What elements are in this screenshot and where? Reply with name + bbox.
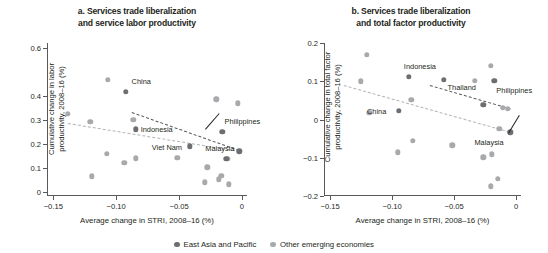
panel-a-plot-area: Cumulative change in labor productivity,… bbox=[47, 43, 247, 196]
data-point bbox=[395, 150, 400, 155]
data-point bbox=[123, 89, 128, 94]
y-tick-label: 0.6 bbox=[30, 43, 41, 52]
data-point bbox=[105, 77, 110, 82]
legend-label-eap: East Asia and Pacific bbox=[184, 240, 257, 249]
y-tick bbox=[320, 81, 324, 82]
panel-b-y-axis-label-line1: Cumulative change in total factor bbox=[323, 52, 332, 163]
data-point bbox=[205, 165, 210, 170]
data-point bbox=[488, 63, 493, 68]
y-tick-label: 0.1 bbox=[30, 164, 41, 173]
label-leader-line bbox=[508, 115, 520, 134]
x-tick-label: −0.05 bbox=[444, 202, 463, 211]
legend: East Asia and Pacific Other emerging eco… bbox=[0, 240, 548, 249]
data-point bbox=[236, 149, 241, 154]
data-point bbox=[495, 176, 500, 181]
data-point bbox=[409, 97, 414, 102]
y-tick bbox=[320, 43, 324, 44]
x-tick-label: −0.15 bbox=[44, 202, 63, 211]
data-point bbox=[505, 106, 510, 111]
data-point bbox=[213, 96, 218, 101]
data-point bbox=[492, 78, 497, 83]
data-point bbox=[488, 184, 493, 189]
y-tick-label: 0.4 bbox=[30, 92, 41, 101]
panel-a-x-axis bbox=[47, 195, 247, 196]
data-point bbox=[235, 101, 240, 106]
data-point-label: China bbox=[367, 107, 386, 116]
figure-scatter-pair: a. Services trade liberalization and ser… bbox=[0, 0, 548, 253]
data-point-label: Philippines bbox=[496, 86, 532, 95]
data-point bbox=[220, 129, 225, 134]
panel-b-x-axis bbox=[324, 195, 521, 196]
y-tick bbox=[43, 144, 47, 145]
data-point-label: Philippines bbox=[224, 117, 260, 126]
data-point bbox=[122, 160, 127, 165]
y-tick-label: 0.2 bbox=[307, 39, 318, 48]
y-tick-label: −0.1 bbox=[303, 153, 318, 162]
data-point-label: Malaysia bbox=[474, 138, 503, 147]
panel-b-title-line1: b. Services trade liberalization bbox=[352, 6, 471, 16]
panel-a-y-axis-label: Cumulative change in labor productivity,… bbox=[47, 39, 67, 179]
data-point bbox=[497, 126, 502, 131]
label-leader-line bbox=[205, 113, 220, 130]
x-tick-label: 0 bbox=[514, 202, 518, 211]
data-point-label: China bbox=[132, 77, 151, 86]
data-point bbox=[187, 144, 192, 149]
panel-a-y-axis-label-line1: Cumulative change in labor bbox=[47, 63, 56, 155]
data-point bbox=[226, 182, 231, 187]
chart-panel-b: b. Services trade liberalization and tot… bbox=[274, 0, 548, 232]
data-point bbox=[396, 108, 401, 113]
data-point bbox=[441, 77, 446, 82]
x-tick bbox=[392, 196, 393, 200]
data-point bbox=[133, 127, 138, 132]
data-point bbox=[133, 156, 138, 161]
x-tick-label: −0.05 bbox=[169, 202, 188, 211]
panel-b-x-axis-label: Average change in STRI, 2008–16 (%) bbox=[324, 216, 521, 225]
legend-marker-icon-eap bbox=[174, 242, 180, 248]
y-tick-label: 0.1 bbox=[307, 77, 318, 86]
panel-a-title-line1: a. Services trade liberalization bbox=[78, 6, 196, 16]
y-tick bbox=[320, 158, 324, 159]
legend-item-other-emerging-economies: Other emerging economies bbox=[270, 240, 374, 249]
data-point bbox=[174, 155, 179, 160]
y-tick-label: 0.3 bbox=[30, 116, 41, 125]
panel-b-title-line2: and total factor productivity bbox=[274, 18, 548, 30]
legend-item-east-asia-and-pacific: East Asia and Pacific bbox=[174, 240, 256, 249]
data-point-label: Indonesia bbox=[141, 125, 173, 134]
y-tick-label: −0.2 bbox=[303, 192, 318, 201]
data-point bbox=[65, 111, 70, 116]
x-tick-label: −0.15 bbox=[321, 202, 340, 211]
data-point-label: Indonesia bbox=[404, 62, 436, 71]
data-point bbox=[450, 142, 455, 147]
data-point bbox=[202, 180, 207, 185]
data-point-label: Malaysia bbox=[205, 144, 234, 153]
data-point bbox=[481, 102, 486, 107]
panel-a-title-line2: and service labor productivity bbox=[0, 18, 274, 30]
data-point-label: Viet Nam bbox=[152, 143, 182, 152]
data-point bbox=[219, 173, 224, 178]
panel-a-title: a. Services trade liberalization and ser… bbox=[0, 6, 274, 29]
data-point bbox=[481, 155, 486, 160]
x-tick bbox=[116, 196, 117, 200]
data-point bbox=[358, 79, 363, 84]
data-point bbox=[364, 52, 369, 57]
x-tick bbox=[330, 196, 331, 200]
panel-b-y-axis-label-line2: productivity, 2008–16 (%) bbox=[333, 64, 342, 150]
data-point-label: Thailand bbox=[448, 83, 476, 92]
panel-b-plot-area: Cumulative change in total factor produc… bbox=[324, 43, 521, 196]
x-tick bbox=[242, 196, 243, 200]
x-tick bbox=[516, 196, 517, 200]
y-tick bbox=[320, 120, 324, 121]
x-tick-label: 0 bbox=[240, 202, 244, 211]
x-tick-label: −0.10 bbox=[383, 202, 402, 211]
x-tick bbox=[454, 196, 455, 200]
y-tick-label: 0 bbox=[314, 115, 318, 124]
legend-marker-icon-other bbox=[270, 242, 276, 248]
legend-label-other: Other emerging economies bbox=[280, 240, 374, 249]
panel-a-x-axis-label: Average change in STRI, 2008–16 (%) bbox=[47, 216, 247, 225]
data-point bbox=[489, 152, 494, 157]
data-point bbox=[406, 74, 411, 79]
panel-a-y-axis-label-line2: productivity, 2008–16 (%) bbox=[57, 66, 66, 152]
y-tick bbox=[320, 196, 324, 197]
y-tick bbox=[43, 192, 47, 193]
data-point bbox=[88, 119, 93, 124]
